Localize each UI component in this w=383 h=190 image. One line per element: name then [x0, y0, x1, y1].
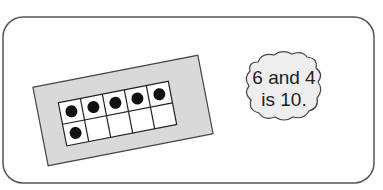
thought-bubble: 6 and 4 is 10.	[246, 52, 321, 120]
bubble-line-1: 6 and 4	[252, 67, 316, 88]
figure-canvas: 6 and 4 is 10.	[0, 0, 383, 190]
bubble-line-2: is 10.	[261, 89, 306, 110]
